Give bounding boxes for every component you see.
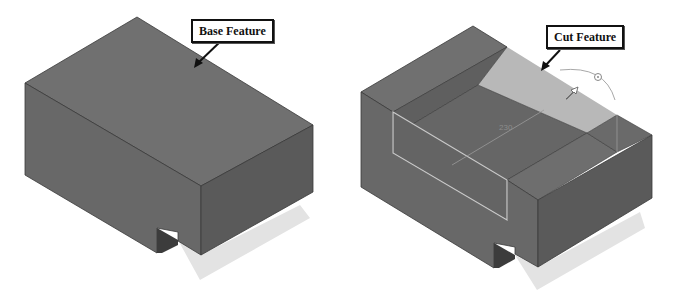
base-callout-leader	[198, 40, 222, 63]
base-feature-label: Base Feature	[199, 24, 266, 38]
dimension-value[interactable]: 230	[499, 123, 513, 132]
drag-handle-dot	[597, 76, 599, 78]
base-feature-model[interactable]	[25, 17, 313, 280]
base-feature-callout: Base Feature	[191, 19, 274, 43]
cut-feature-model[interactable]: 230	[361, 26, 652, 290]
cut-feature-label: Cut Feature	[554, 30, 616, 44]
cut-callout-leader	[545, 50, 560, 66]
cut-feature-callout: Cut Feature	[546, 25, 624, 49]
